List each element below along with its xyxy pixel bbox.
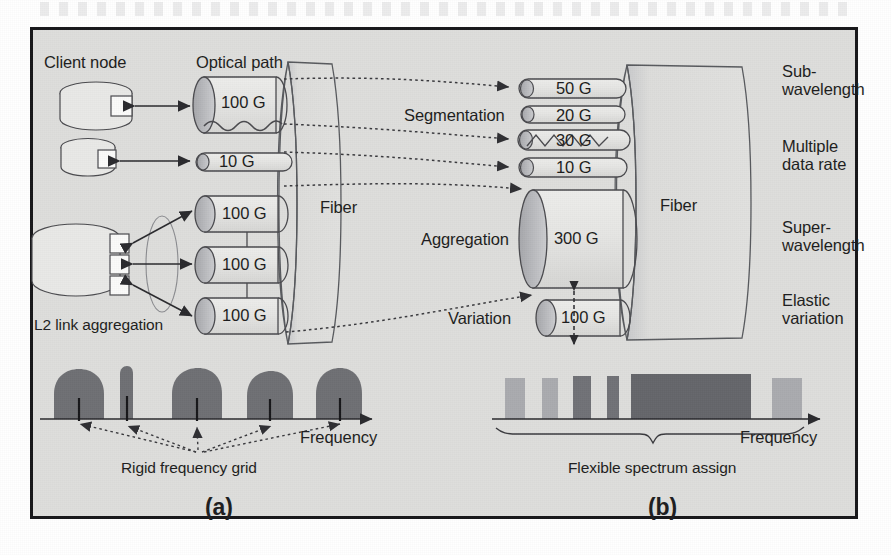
- label-frequency-a: Frequency: [300, 428, 377, 446]
- side-label-sub-wavelength-2: wavelength: [782, 80, 864, 98]
- side-label-super-wavelength-2: wavelength: [782, 236, 864, 254]
- label-segmentation: Segmentation: [404, 106, 505, 124]
- panel-letter-b: (b): [648, 495, 677, 521]
- label-fiber-right: Fiber: [660, 196, 697, 214]
- label-fiber-left: Fiber: [320, 198, 357, 216]
- label-aggregation: Aggregation: [421, 230, 509, 248]
- client-node-drum-2: [61, 139, 116, 177]
- path-label-100g-elastic: 100 G: [561, 308, 605, 326]
- path-label-100g-c: 100 G: [222, 306, 266, 324]
- path-label-10g: 10 G: [219, 152, 254, 170]
- label-l2-link-aggregation: L2 link aggregation: [34, 316, 163, 333]
- spectrum-rigid-grid: [40, 366, 372, 421]
- path-label-50g: 50 G: [556, 79, 591, 97]
- label-frequency-b: Frequency: [740, 428, 817, 446]
- figure-canvas: Client node Optical path Fiber L2 link a…: [0, 0, 891, 555]
- side-label-elastic-variation-2: variation: [782, 309, 843, 327]
- side-label-multiple-data-rate-1: Multiple: [782, 137, 838, 155]
- client-node-drum-1: [60, 82, 132, 130]
- side-label-elastic-variation-1: Elastic: [782, 291, 830, 309]
- path-label-300g: 300 G: [554, 229, 598, 247]
- side-label-sub-wavelength-1: Sub-: [782, 62, 816, 80]
- label-optical-path: Optical path: [196, 53, 283, 71]
- side-label-multiple-data-rate-2: data rate: [782, 155, 846, 173]
- path-label-10g-b: 10 G: [556, 158, 591, 176]
- path-label-100g-top: 100 G: [221, 93, 265, 111]
- path-label-20g: 20 G: [556, 106, 591, 124]
- path-label-100g-b: 100 G: [222, 255, 266, 273]
- panel-letter-a: (a): [205, 495, 233, 521]
- side-label-super-wavelength-1: Super-: [782, 218, 831, 236]
- label-flexible-spectrum-assign: Flexible spectrum assign: [568, 459, 736, 476]
- label-client-node: Client node: [44, 53, 126, 71]
- path-label-30g: 30 G: [556, 131, 591, 149]
- label-rigid-frequency-grid: Rigid frequency grid: [121, 459, 257, 476]
- label-variation: Variation: [448, 309, 511, 327]
- panel-a-arrows: [120, 106, 192, 316]
- path-label-100g-a: 100 G: [222, 204, 266, 222]
